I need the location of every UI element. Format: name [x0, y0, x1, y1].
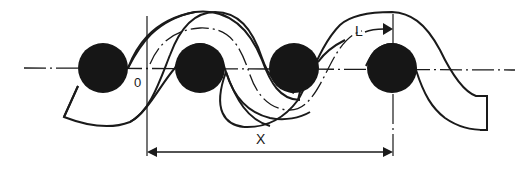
- length-label: L: [355, 23, 363, 39]
- yarn-left-cut-end: [64, 86, 78, 117]
- yarn-cross-section-2: [175, 43, 225, 93]
- crimp-diagram: 0 L X: [0, 0, 532, 169]
- yarn-cross-section-1: [78, 43, 128, 93]
- span-arrowhead-right: [383, 147, 393, 157]
- length-arrow-line: [365, 29, 384, 32]
- span-label: X: [256, 131, 266, 147]
- span-arrowhead-left: [147, 147, 157, 157]
- origin-label: 0: [134, 75, 141, 90]
- yarn-cross-section-3: [269, 43, 319, 93]
- length-arrowhead: [383, 23, 393, 35]
- yarn-cross-section-4: [367, 43, 417, 93]
